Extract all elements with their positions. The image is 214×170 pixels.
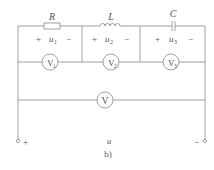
terminal-minus-label: − bbox=[194, 137, 199, 147]
u1-minus: − bbox=[66, 34, 71, 44]
inductor-label: L bbox=[107, 11, 114, 22]
u3-plus: + bbox=[155, 34, 160, 44]
u2-plus: + bbox=[92, 34, 97, 44]
resistor-label: R bbox=[48, 11, 55, 22]
voltmeter-total-label: V bbox=[101, 95, 109, 106]
circuit-diagram: R L C + u 1 − V 1 + u 2 − V 2 + u 3 − V … bbox=[0, 0, 214, 170]
u1-sub: 1 bbox=[54, 39, 57, 45]
figure-caption: b) bbox=[104, 149, 112, 159]
voltmeter-1-sub: 1 bbox=[53, 63, 56, 69]
u2-minus: − bbox=[124, 34, 129, 44]
inductor-symbol bbox=[100, 24, 120, 26]
resistor-symbol bbox=[44, 23, 60, 29]
voltmeter-3-sub: 3 bbox=[174, 63, 177, 69]
capacitor-label: C bbox=[170, 8, 177, 19]
u2-sub: 2 bbox=[110, 39, 113, 45]
voltmeter-2-sub: 2 bbox=[114, 63, 117, 69]
terminal-plus-label: + bbox=[23, 137, 28, 147]
source-voltage-label: u bbox=[107, 136, 112, 146]
u3-sub: 3 bbox=[174, 39, 177, 45]
u1-plus: + bbox=[36, 34, 41, 44]
u3-minus: − bbox=[188, 34, 193, 44]
